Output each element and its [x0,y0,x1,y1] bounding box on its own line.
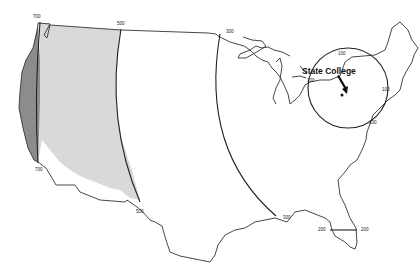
us-distance-map: 700 700 500 500 300 300 100 100 100 100 … [0,0,420,270]
label-700-south: 700 [35,167,43,172]
label-100-east: 100 [382,87,390,92]
great-lakes [238,37,307,104]
city-label-state-college: State College [302,66,356,76]
arrow-icon [337,75,348,94]
label-100-west: 100 [307,78,315,83]
label-100-north: 100 [338,51,346,56]
zone-500-700 [38,23,140,200]
label-100-south: 100 [369,120,377,125]
state-college-marker [341,94,344,97]
label-300-south: 300 [283,215,291,220]
label-500-north: 500 [117,21,125,26]
label-700-north: 700 [33,14,41,19]
label-500-south: 500 [136,209,144,214]
label-florida-west: 200 [318,227,326,232]
label-florida-east: 200 [361,227,369,232]
label-300-north: 300 [226,29,234,34]
